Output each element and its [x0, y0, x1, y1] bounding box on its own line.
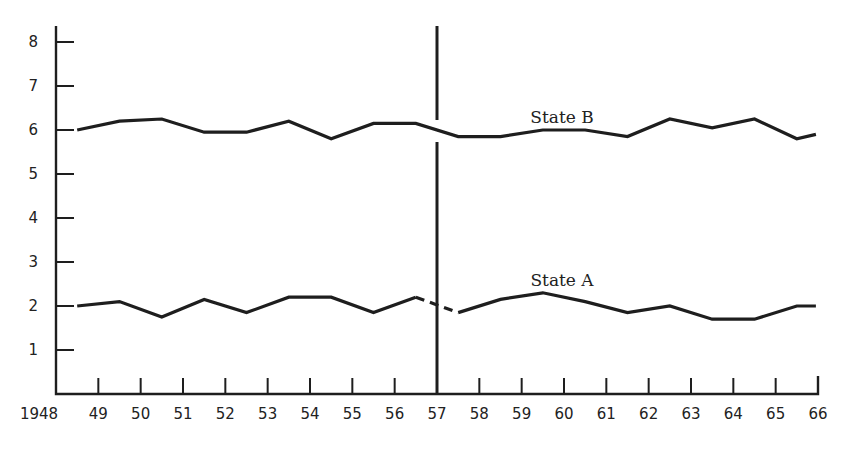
x-tick-label: 52 — [216, 405, 235, 423]
y-tick-label: 6 — [28, 121, 38, 139]
y-tick-label: 3 — [28, 253, 38, 271]
x-tick-label: 66 — [808, 405, 827, 423]
x-tick-label: 54 — [300, 405, 319, 423]
state-a-line-post — [458, 293, 816, 319]
state-a-line-pre — [77, 297, 416, 317]
series-lines — [77, 119, 816, 319]
x-tick-label: 51 — [173, 405, 192, 423]
x-tick-label: 59 — [512, 405, 531, 423]
x-tick-label: 64 — [724, 405, 743, 423]
y-axis-ticks: 12345678 — [28, 33, 74, 359]
x-tick-label: 58 — [470, 405, 489, 423]
x-axis-ticks: 1948495051525354555657585960616263646566 — [20, 378, 828, 423]
y-tick-label: 4 — [28, 209, 38, 227]
x-tick-label: 56 — [385, 405, 404, 423]
state-a-label: State A — [530, 270, 594, 290]
x-tick-label: 57 — [427, 405, 446, 423]
line-chart: 12345678 1948495051525354555657585960616… — [0, 0, 850, 449]
x-tick-label: 62 — [639, 405, 658, 423]
state-b-label: State B — [530, 107, 593, 127]
y-tick-label: 5 — [28, 165, 38, 183]
x-tick-label: 49 — [89, 405, 108, 423]
x-tick-label: 53 — [258, 405, 277, 423]
y-tick-label: 1 — [28, 341, 38, 359]
y-tick-label: 2 — [28, 297, 38, 315]
y-tick-label: 7 — [28, 77, 38, 95]
y-tick-label: 8 — [28, 33, 38, 51]
x-tick-label: 1948 — [20, 405, 58, 423]
x-tick-label: 65 — [766, 405, 785, 423]
x-tick-label: 50 — [131, 405, 150, 423]
x-tick-label: 55 — [343, 405, 362, 423]
x-tick-label: 63 — [681, 405, 700, 423]
x-tick-label: 60 — [554, 405, 573, 423]
x-tick-label: 61 — [597, 405, 616, 423]
state-b-line — [77, 119, 816, 139]
